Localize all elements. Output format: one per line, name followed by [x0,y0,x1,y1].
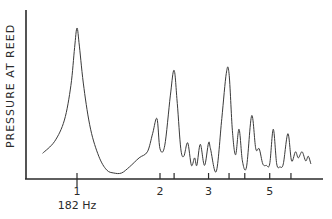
x-tick-label: 1 [74,185,81,198]
x-tick-label: 3 [205,185,212,198]
fundamental-label: 182 Hz [58,199,97,212]
x-tick-label: 5 [266,185,273,198]
x-tick-label: 2 [157,185,164,198]
y-axis-label: PRESSURE AT REED [4,24,17,148]
chart: PRESSURE AT REED 1235 182 Hz [0,0,332,219]
y-axis-label-group: PRESSURE AT REED [4,24,17,148]
pressure-curve [43,28,311,174]
x-ticks: 1235 [74,173,291,198]
